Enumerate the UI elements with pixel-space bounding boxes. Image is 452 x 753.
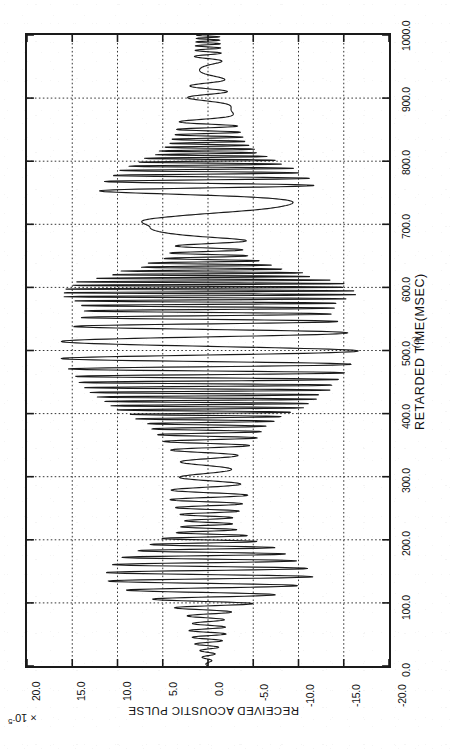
- time-tick-label: 200.0: [400, 531, 412, 556]
- figure-acoustic-pulse: 0.0100.0200.0300.0400.0500.0600.0700.080…: [0, 0, 452, 753]
- amplitude-tick-label: -15.0: [350, 685, 362, 707]
- amplitude-tick-label: 0.0: [213, 682, 225, 696]
- waveform-layer: [27, 35, 389, 666]
- time-tick-label: 400.0: [400, 404, 412, 429]
- plot-frame: [25, 33, 391, 668]
- exponent-power: -5: [8, 717, 15, 726]
- amplitude-tick-label: -5.0: [258, 684, 270, 701]
- time-axis-title: RETARDED TIME(MSEC): [413, 273, 427, 430]
- time-tick-label: 100.0: [400, 595, 412, 620]
- subfigure-label: (a): [410, 336, 421, 348]
- time-tick-label: 0.0: [400, 663, 412, 677]
- amplitude-axis-exponent: × 10-5: [8, 712, 37, 726]
- amplitude-tick-label: 15.0: [75, 682, 87, 701]
- amplitude-tick-label: 5.0: [167, 682, 179, 696]
- amplitude-tick-label: 20.0: [30, 682, 42, 701]
- time-tick-label: 800.0: [400, 150, 412, 175]
- amplitude-tick-label: 10.0: [121, 682, 133, 701]
- time-tick-label: 600.0: [400, 277, 412, 302]
- acoustic-pulse-trace: [61, 35, 358, 666]
- amplitude-tick-label: -10.0: [304, 685, 316, 707]
- amplitude-axis-title: RECEIVED ACOUSTIC PULSE: [128, 705, 299, 717]
- time-tick-label: 300.0: [400, 468, 412, 493]
- time-tick-label: 900.0: [400, 87, 412, 112]
- amplitude-tick-label: -20.0: [396, 685, 408, 707]
- exponent-mantissa: × 10: [15, 712, 37, 724]
- time-tick-label: 1000.0: [400, 21, 412, 51]
- time-tick-label: 700.0: [400, 214, 412, 239]
